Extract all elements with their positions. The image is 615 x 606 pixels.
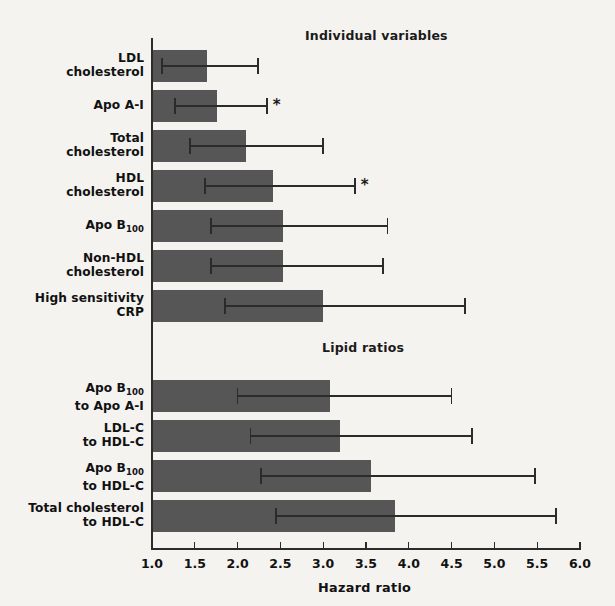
error-bar-line-0-6 — [225, 305, 466, 307]
x-tick-6 — [408, 542, 409, 548]
error-bar-cap-lower-0-2 — [189, 138, 191, 154]
x-tick-2 — [237, 542, 238, 548]
x-tick-8 — [494, 542, 495, 548]
error-bar-cap-upper-0-2 — [322, 138, 324, 154]
error-bar-line-0-5 — [211, 265, 383, 267]
category-label-0-0: LDLcholesterol — [0, 51, 144, 79]
x-axis-title: Hazard ratio — [318, 580, 411, 595]
x-tick-label-1: 1.5 — [173, 556, 217, 571]
error-bar-cap-lower-0-3 — [204, 178, 206, 194]
category-label-1-0: Apo B100to Apo A-I — [0, 381, 144, 413]
section-title-lipid-ratios: Lipid ratios — [322, 340, 404, 355]
error-bar-cap-upper-1-1 — [471, 428, 473, 444]
x-tick-3 — [280, 542, 281, 548]
x-tick-10 — [579, 542, 580, 548]
x-tick-0 — [151, 542, 152, 548]
y-axis-spine — [151, 38, 153, 548]
category-label-0-3: HDLcholesterol — [0, 171, 144, 199]
error-bar-line-1-3 — [276, 515, 556, 517]
significance-marker-0-1: * — [273, 98, 281, 113]
category-label-0-5: Non-HDLcholesterol — [0, 251, 144, 279]
x-tick-label-8: 5.0 — [472, 556, 516, 571]
category-label-0-4: Apo B100 — [0, 218, 144, 236]
error-bar-line-0-1 — [175, 105, 267, 107]
error-bar-cap-lower-1-0 — [237, 388, 239, 404]
error-bar-cap-upper-0-1 — [266, 98, 268, 114]
error-bar-cap-lower-0-5 — [210, 258, 212, 274]
x-tick-9 — [537, 542, 538, 548]
error-bar-cap-upper-0-6 — [464, 298, 466, 314]
category-label-1-2: Apo B100to HDL-C — [0, 461, 144, 493]
error-bar-cap-upper-1-3 — [555, 508, 557, 524]
error-bar-cap-lower-0-1 — [174, 98, 176, 114]
error-bar-cap-lower-0-4 — [210, 218, 212, 234]
error-bar-line-0-2 — [190, 145, 324, 147]
x-tick-label-2: 2.0 — [216, 556, 260, 571]
error-bar-line-0-4 — [211, 225, 387, 227]
error-bar-cap-upper-0-0 — [257, 58, 259, 74]
significance-marker-0-3: * — [361, 178, 369, 193]
x-tick-label-3: 2.5 — [258, 556, 302, 571]
x-tick-4 — [323, 542, 324, 548]
error-bar-line-0-3 — [205, 185, 355, 187]
section-title-individual-variables: Individual variables — [305, 28, 448, 43]
x-axis-line — [151, 548, 581, 550]
error-bar-cap-lower-0-6 — [224, 298, 226, 314]
error-bar-cap-upper-0-5 — [382, 258, 384, 274]
error-bar-cap-lower-0-0 — [161, 58, 163, 74]
x-tick-1 — [194, 542, 195, 548]
error-bar-line-0-0 — [162, 65, 258, 67]
error-bar-cap-lower-1-1 — [250, 428, 252, 444]
category-label-0-2: Totalcholesterol — [0, 131, 144, 159]
category-label-1-1: LDL-Cto HDL-C — [0, 421, 144, 449]
error-bar-line-1-0 — [238, 395, 452, 397]
category-label-0-6: High sensitivityCRP — [0, 291, 144, 319]
error-bar-cap-upper-1-2 — [534, 468, 536, 484]
x-tick-5 — [365, 542, 366, 548]
error-bar-cap-lower-1-3 — [275, 508, 277, 524]
x-tick-label-0: 1.0 — [130, 556, 174, 571]
x-tick-label-5: 3.5 — [344, 556, 388, 571]
error-bar-line-1-2 — [261, 475, 535, 477]
x-tick-7 — [451, 542, 452, 548]
error-bar-cap-upper-0-4 — [387, 218, 389, 234]
error-bar-cap-lower-1-2 — [260, 468, 262, 484]
x-tick-label-6: 4.0 — [387, 556, 431, 571]
x-tick-label-7: 4.5 — [430, 556, 474, 571]
hazard-ratio-chart: Individual variablesLDLcholesterol*Apo A… — [0, 0, 615, 606]
error-bar-cap-upper-0-3 — [354, 178, 356, 194]
error-bar-line-1-1 — [250, 435, 472, 437]
x-tick-label-9: 5.5 — [515, 556, 559, 571]
error-bar-cap-upper-1-0 — [451, 388, 453, 404]
category-label-0-1: Apo A-I — [0, 98, 144, 112]
x-tick-label-10: 6.0 — [558, 556, 602, 571]
x-tick-label-4: 3.0 — [301, 556, 345, 571]
category-label-1-3: Total cholesterolto HDL-C — [0, 501, 144, 529]
